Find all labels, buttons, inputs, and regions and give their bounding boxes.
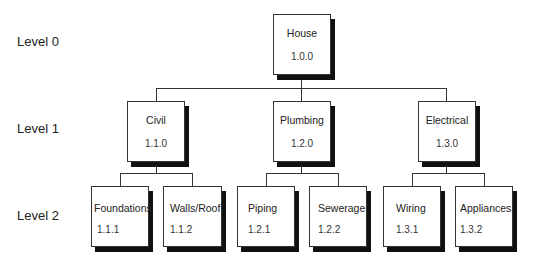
node-sewerage[interactable]: Sewerage 1.2.2 xyxy=(309,186,367,247)
connector-civil-down xyxy=(156,165,157,173)
node-code: 1.2.1 xyxy=(248,224,294,235)
connector-sewerage-up xyxy=(338,173,339,186)
node-code: 1.3.0 xyxy=(419,138,475,149)
node-foundations[interactable]: Foundations 1.1.1 xyxy=(91,186,149,247)
connector-piping-up xyxy=(266,173,267,186)
connector-civil-up xyxy=(156,88,157,101)
node-name: Civil xyxy=(128,114,184,126)
node-name: Wiring xyxy=(396,202,440,214)
connector-electrical-up xyxy=(446,88,447,101)
node-code: 1.1.0 xyxy=(128,138,184,149)
connector-electrical-down xyxy=(446,165,447,173)
connector-appliances-up xyxy=(484,173,485,186)
node-name: Piping xyxy=(248,202,294,214)
node-code: 1.2.2 xyxy=(318,224,366,235)
node-house[interactable]: House 1.0.0 xyxy=(273,14,331,75)
node-piping[interactable]: Piping 1.2.1 xyxy=(237,186,295,247)
node-name: Foundations xyxy=(94,202,148,214)
node-code: 1.0.0 xyxy=(274,51,330,62)
node-appliances[interactable]: Appliances 1.3.2 xyxy=(455,186,513,247)
node-code: 1.2.0 xyxy=(274,138,330,149)
node-code: 1.1.1 xyxy=(97,224,148,235)
connector-plumbing-down xyxy=(301,165,302,173)
node-name: Walls/Roof xyxy=(170,202,221,214)
connector-foundations-up xyxy=(120,173,121,186)
node-name: Sewerage xyxy=(318,202,366,214)
connector-wiring-up xyxy=(412,173,413,186)
node-walls-roof[interactable]: Walls/Roof 1.1.2 xyxy=(163,186,222,247)
node-electrical[interactable]: Electrical 1.3.0 xyxy=(418,101,476,162)
node-code: 1.1.2 xyxy=(170,224,221,235)
level-label-1: Level 1 xyxy=(17,121,59,136)
connector-plumbing-bus xyxy=(266,173,339,174)
node-civil[interactable]: Civil 1.1.0 xyxy=(127,101,185,162)
connector-root-down xyxy=(301,78,302,88)
node-name: Plumbing xyxy=(274,114,330,126)
connector-plumbing-up xyxy=(301,88,302,101)
node-name: Appliances xyxy=(460,202,512,214)
connector-electrical-bus xyxy=(412,173,485,174)
level-label-2: Level 2 xyxy=(17,208,59,223)
node-code: 1.3.1 xyxy=(396,224,440,235)
node-plumbing[interactable]: Plumbing 1.2.0 xyxy=(273,101,331,162)
level-label-0: Level 0 xyxy=(17,34,59,49)
node-name: House xyxy=(274,27,330,39)
connector-civil-bus xyxy=(120,173,193,174)
node-code: 1.3.2 xyxy=(460,224,512,235)
node-wiring[interactable]: Wiring 1.3.1 xyxy=(383,186,441,247)
node-name: Electrical xyxy=(419,114,475,126)
connector-wallsroof-up xyxy=(192,173,193,186)
